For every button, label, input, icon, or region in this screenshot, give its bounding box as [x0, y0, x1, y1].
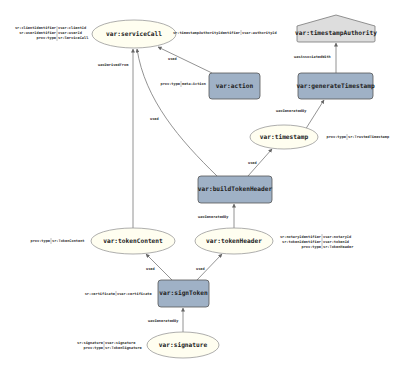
- attrs-tokencontent: prov:type sr:TokenContent: [31, 238, 85, 244]
- attrs-signtoken: sr:certificate vvar:certificate: [85, 291, 153, 296]
- attr-key: sr:notaryIdentifier: [280, 235, 322, 239]
- node-tokencontent[interactable]: var:tokenContent: [91, 228, 175, 254]
- attr-value: meta:Action: [182, 82, 206, 86]
- node-label: var:action: [216, 82, 254, 89]
- node-label: var:timestamp: [260, 133, 309, 141]
- node-tokenheader[interactable]: var:tokenHeader: [195, 228, 273, 254]
- attr-key: sr:signature: [77, 341, 104, 345]
- edge-label: used: [150, 117, 159, 121]
- node-label: var:timestampAuthority: [295, 29, 377, 37]
- node-label: var:tokenHeader: [206, 237, 262, 244]
- edge-action-used-servicecall: [158, 47, 212, 73]
- attr-value: sr:TokenHeader: [323, 245, 354, 249]
- edge-label: wasGeneratedBy: [148, 319, 179, 323]
- attr-key: prov:type: [161, 82, 181, 86]
- attr-key: prov:type: [302, 245, 322, 249]
- attr-key: sr:certificate: [85, 292, 116, 296]
- edge-label: used: [146, 267, 155, 271]
- node-action[interactable]: var:action: [209, 73, 260, 99]
- node-label: var:serviceCall: [106, 30, 162, 37]
- attr-key: prov:type: [31, 239, 51, 243]
- attr-value: vvar:tokenId: [323, 240, 349, 244]
- node-label: var:signToken: [159, 289, 208, 297]
- attr-value: vvar:clientId: [58, 26, 86, 30]
- node-signtoken[interactable]: var:signToken: [158, 280, 209, 307]
- provenance-diagram: used wasDerivedFrom used wasAssociatedWi…: [0, 0, 400, 378]
- node-label: var:tokenContent: [103, 237, 163, 244]
- attr-value: sr:ServiceCall: [58, 36, 88, 40]
- attr-key: sr:userIdentifier: [19, 31, 57, 35]
- edge-label: wasDerivedFrom: [98, 63, 129, 67]
- node-servicecall[interactable]: var:serviceCall: [92, 20, 176, 48]
- attrs-signature: sr:signature vvar:signature prov:type sr…: [77, 341, 143, 350]
- edge-label: used: [196, 267, 205, 271]
- attrs-action: prov:type meta:Action: [161, 81, 206, 87]
- attrs-timestamp: prov:type sr:TrustedTimestamp: [327, 134, 390, 140]
- attr-value: sr:TokenSignature: [105, 346, 143, 350]
- attrs-tokenheader: sr:notaryIdentifier vvar:notaryId sr:tok…: [280, 234, 354, 249]
- attr-value: vvar:signature: [105, 341, 136, 345]
- node-signature[interactable]: var:signature: [147, 332, 219, 358]
- attrs-servicecall: sr:clientIdentifier vvar:clientId sr:use…: [15, 26, 88, 41]
- edge-label: used: [248, 161, 257, 165]
- edge-label: wasGeneratedBy: [276, 109, 307, 113]
- node-label: var:generateTimestamp: [296, 82, 375, 90]
- node-generatetimestamp[interactable]: var:generateTimestamp: [296, 73, 375, 99]
- edge-buildtokenheader-used-servicecall: [137, 49, 217, 176]
- attr-value: vvar:certificate: [117, 292, 152, 296]
- node-label: var:signature: [159, 341, 208, 349]
- attr-value: vvar:userId: [58, 31, 82, 35]
- edge-label: wasAssociatedWith: [294, 55, 331, 59]
- node-timestampauthority[interactable]: var:timestampAuthority: [295, 15, 377, 42]
- attr-key: prov:type: [37, 36, 57, 40]
- attr-key: sr:timestampAuthorityIdentifier: [173, 31, 241, 35]
- attr-value: sr:TrustedTimestamp: [348, 135, 389, 139]
- edge-label: used: [168, 57, 177, 61]
- attr-value: vvar:authorityId: [242, 31, 277, 35]
- edge-label: wasGeneratedBy: [198, 215, 229, 219]
- attrs-timestampauthority: sr:timestampAuthorityIdentifier vvar:aut…: [173, 30, 277, 35]
- node-timestamp[interactable]: var:timestamp: [250, 125, 318, 149]
- attr-key: sr:tokenIdentifier: [282, 240, 322, 244]
- attr-key: prov:type: [84, 346, 104, 350]
- node-label: var:buildTokenHeader: [198, 185, 273, 192]
- attr-key: sr:clientIdentifier: [15, 26, 57, 30]
- attr-value: sr:TokenContent: [52, 239, 84, 243]
- attr-key: prov:type: [327, 135, 347, 139]
- attr-value: vvar:notaryId: [323, 235, 351, 239]
- node-buildtokenheader[interactable]: var:buildTokenHeader: [198, 176, 273, 203]
